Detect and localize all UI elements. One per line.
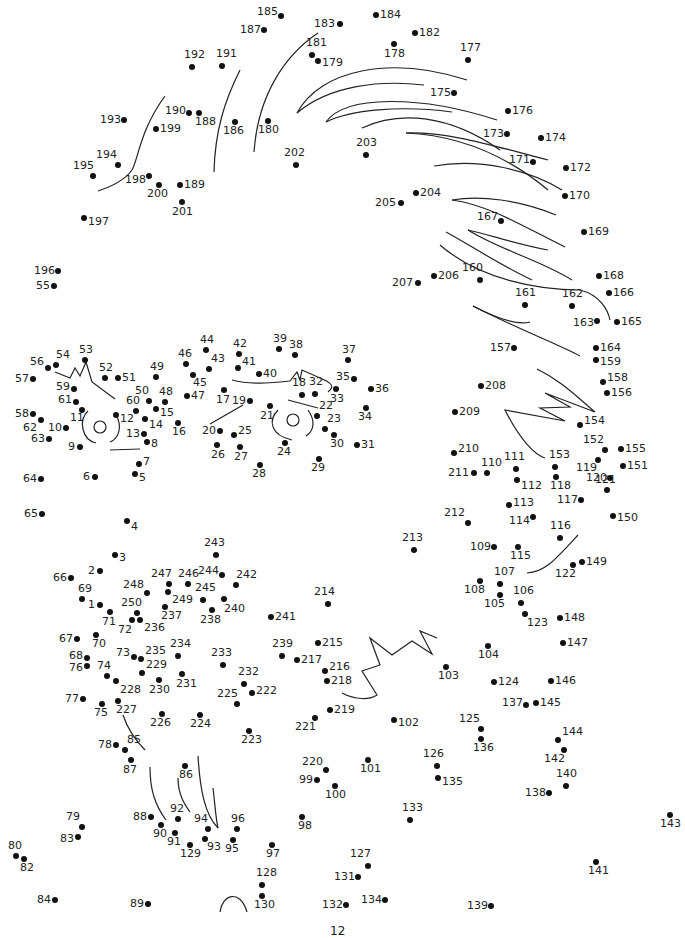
- dot-208: [478, 383, 484, 389]
- dot-label: 181: [306, 37, 327, 49]
- dot-249: [165, 589, 171, 595]
- dot-229: [139, 670, 145, 676]
- dot-label: 241: [275, 611, 296, 623]
- dot-68: [84, 655, 90, 661]
- dot-label: 89: [130, 898, 144, 910]
- dot-192: [189, 64, 195, 70]
- dot-69: [79, 596, 85, 602]
- dot-23: [322, 426, 328, 432]
- dot-label: 67: [59, 633, 73, 645]
- dot-198: [146, 173, 152, 179]
- dot-label: 33: [330, 393, 344, 405]
- dot-label: 249: [172, 594, 193, 606]
- dot-label: 151: [627, 460, 648, 472]
- dot-3: [112, 552, 118, 558]
- dot-84: [52, 897, 58, 903]
- dot-label: 66: [53, 572, 67, 584]
- dot-117: [578, 497, 584, 503]
- dot-label: 134: [361, 894, 382, 906]
- dot-label: 122: [555, 568, 576, 580]
- dot-158: [600, 379, 606, 385]
- dot-label: 49: [150, 361, 164, 373]
- dot-49: [153, 374, 159, 380]
- dot-label: 91: [167, 836, 181, 848]
- dot-46: [183, 361, 189, 367]
- dot-label: 192: [184, 49, 205, 61]
- dot-9: [77, 444, 83, 450]
- dot-152: [602, 447, 608, 453]
- dot-label: 59: [56, 381, 70, 393]
- dot-15: [153, 406, 159, 412]
- dot-label: 164: [600, 342, 621, 354]
- dot-64: [38, 476, 44, 482]
- dot-177: [465, 57, 471, 63]
- dot-242: [233, 582, 239, 588]
- dot-label: 73: [116, 647, 130, 659]
- dot-label: 161: [515, 287, 536, 299]
- dot-label: 97: [266, 848, 280, 860]
- dot-66: [68, 575, 74, 581]
- dot-label: 137: [502, 697, 523, 709]
- guide-curve: [452, 198, 556, 215]
- dot-116: [557, 535, 563, 541]
- dot-label: 37: [342, 344, 356, 356]
- dot-label: 82: [20, 862, 34, 874]
- dot-216: [322, 668, 328, 674]
- dot-234: [175, 653, 181, 659]
- dot-label: 110: [481, 457, 502, 469]
- dot-207: [415, 280, 421, 286]
- dot-89: [145, 901, 151, 907]
- dot-67: [74, 636, 80, 642]
- dot-148: [557, 615, 563, 621]
- dot-label: 71: [102, 616, 116, 628]
- dot-label: 43: [211, 353, 225, 365]
- dot-166: [606, 290, 612, 296]
- dot-241: [268, 614, 274, 620]
- dot-label: 114: [509, 515, 530, 527]
- dot-label: 245: [195, 582, 216, 594]
- dot-label: 104: [478, 649, 499, 661]
- dot-19: [247, 398, 253, 404]
- dot-label: 232: [238, 666, 259, 678]
- dot-label: 191: [216, 48, 237, 60]
- dot-187: [261, 27, 267, 33]
- dot-label: 64: [23, 473, 37, 485]
- dot-225: [234, 701, 240, 707]
- dot-label: 86: [179, 769, 193, 781]
- guide-curve: [288, 400, 318, 408]
- dot-32: [312, 391, 318, 397]
- dot-label: 103: [438, 670, 459, 682]
- dot-125: [478, 726, 484, 732]
- dot-label: 234: [170, 638, 191, 650]
- dot-12: [113, 412, 119, 418]
- dot-79: [79, 824, 85, 830]
- dot-label: 153: [549, 449, 570, 461]
- dot-43: [206, 366, 212, 372]
- dot-label: 92: [170, 803, 184, 815]
- dot-99: [314, 777, 320, 783]
- dot-217: [294, 657, 300, 663]
- dot-label: 99: [299, 774, 313, 786]
- dot-label: 178: [384, 48, 405, 60]
- dot-label: 55: [36, 280, 50, 292]
- dot-label: 215: [322, 637, 343, 649]
- dot-127: [365, 863, 371, 869]
- dot-label: 51: [122, 372, 136, 384]
- dot-label: 162: [562, 288, 583, 300]
- dot-label: 76: [69, 662, 83, 674]
- dot-151: [620, 463, 626, 469]
- dot-190: [186, 110, 192, 116]
- dot-13: [141, 431, 147, 437]
- dot-8: [144, 439, 150, 445]
- dot-label: 176: [512, 105, 533, 117]
- dot-220: [323, 767, 329, 773]
- dot-219: [327, 707, 333, 713]
- dot-61: [73, 399, 79, 405]
- dot-label: 195: [73, 160, 94, 172]
- dot-label: 157: [490, 342, 511, 354]
- dot-189: [177, 182, 183, 188]
- guide-curve: [452, 200, 565, 247]
- dot-109: [491, 544, 497, 550]
- dot-label: 194: [96, 149, 117, 161]
- dot-144: [555, 737, 561, 743]
